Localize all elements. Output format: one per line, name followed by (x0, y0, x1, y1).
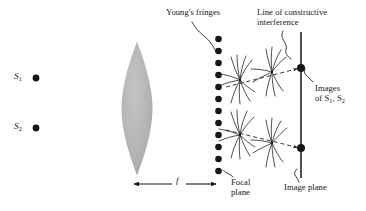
label-s2-subscript: 2 (19, 125, 22, 132)
source-dot-s2 (33, 125, 40, 132)
label-images-s2-subscript: 2 (342, 97, 345, 104)
label-youngs-fringes: Young's fringes (166, 8, 220, 18)
label-s1-subscript: 1 (19, 75, 22, 82)
label-plane-word: plane (231, 187, 250, 197)
leader-youngs-fringes (192, 22, 216, 52)
leader-line-constructive (282, 31, 291, 59)
interference-brush-lower-left (219, 110, 255, 159)
label-image-plane: Image plane (284, 183, 327, 193)
label-source-s2: S2 (14, 122, 22, 134)
label-interference-row2: interference (257, 17, 299, 27)
image-plane-group (297, 32, 305, 178)
constructive-ray-upper (226, 69, 297, 87)
fringe-dot (215, 36, 222, 43)
source-dot-s1 (33, 75, 40, 82)
optics-diagram (0, 0, 366, 211)
fringe-dot (215, 168, 222, 175)
fringe-dot (215, 144, 222, 151)
leader-images (304, 69, 313, 82)
fringe-dot (215, 96, 222, 103)
interference-brush-upper-left (219, 55, 255, 104)
focal-plane-fringe-dots (215, 36, 222, 175)
lens-shape (122, 42, 153, 176)
constructive-ray-lower (226, 130, 297, 147)
fringe-dot (215, 120, 222, 127)
fringe-dot (215, 72, 222, 79)
image-point-lower (297, 144, 305, 152)
label-focal-length-f: f (176, 176, 179, 186)
fringe-dot (215, 48, 222, 55)
fringe-dot (215, 60, 222, 67)
lens-group (122, 42, 153, 176)
label-focal-word: Focal (231, 177, 250, 187)
fringe-dot (215, 132, 222, 139)
label-line-constructive-row1: Line of constructive (257, 7, 327, 17)
label-focal-plane: Focalplane (231, 178, 250, 198)
source-points-group (33, 75, 40, 132)
fringe-dot (215, 84, 222, 91)
leader-image-plane (295, 169, 299, 182)
label-line-of-constructive-interference: Line of constructiveinterference (257, 8, 327, 28)
fringe-dot (215, 108, 222, 115)
interference-brush-upper-right (251, 47, 286, 96)
image-point-upper (297, 64, 305, 72)
label-images-of-sources: Imagesof S1, S2 (315, 84, 345, 106)
label-images-word: Images (315, 83, 340, 93)
fringe-dot (215, 156, 222, 163)
leader-focal-plane (223, 170, 233, 177)
label-source-s1: S1 (14, 72, 22, 84)
interference-brush-lower-right (251, 118, 287, 167)
leader-lines (192, 22, 313, 182)
